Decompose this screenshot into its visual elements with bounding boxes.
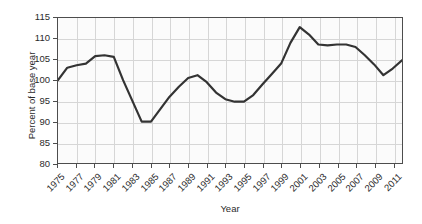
series-polyline <box>58 27 402 121</box>
x-tick-mark <box>356 164 357 168</box>
x-tick-mark <box>319 164 320 168</box>
x-axis-label: Year <box>57 203 403 214</box>
x-tick-mark <box>132 164 133 168</box>
y-tick-label: 85 <box>4 137 50 148</box>
y-tick-label: 110 <box>4 32 50 43</box>
chart-figure: Percent of base year 8085909510010511011… <box>0 0 422 224</box>
x-tick-mark <box>375 164 376 168</box>
y-tick-label: 115 <box>4 11 50 22</box>
plot-area <box>57 17 403 164</box>
x-tick-mark <box>263 164 264 168</box>
x-tick-mark <box>76 164 77 168</box>
x-tick-mark <box>394 164 395 168</box>
x-tick-mark <box>207 164 208 168</box>
y-tick-label: 90 <box>4 116 50 127</box>
x-tick-mark <box>57 164 58 168</box>
x-tick-mark <box>94 164 95 168</box>
x-tick-mark <box>300 164 301 168</box>
y-tick-label: 105 <box>4 53 50 64</box>
y-tick-label: 80 <box>4 158 50 169</box>
x-tick-mark <box>113 164 114 168</box>
x-tick-mark <box>338 164 339 168</box>
x-tick-mark <box>188 164 189 168</box>
y-tick-label: 95 <box>4 95 50 106</box>
x-tick-mark <box>225 164 226 168</box>
line-series <box>58 18 402 163</box>
x-tick-mark <box>244 164 245 168</box>
x-tick-mark <box>281 164 282 168</box>
y-tick-label: 100 <box>4 74 50 85</box>
x-tick-mark <box>151 164 152 168</box>
x-tick-mark <box>169 164 170 168</box>
